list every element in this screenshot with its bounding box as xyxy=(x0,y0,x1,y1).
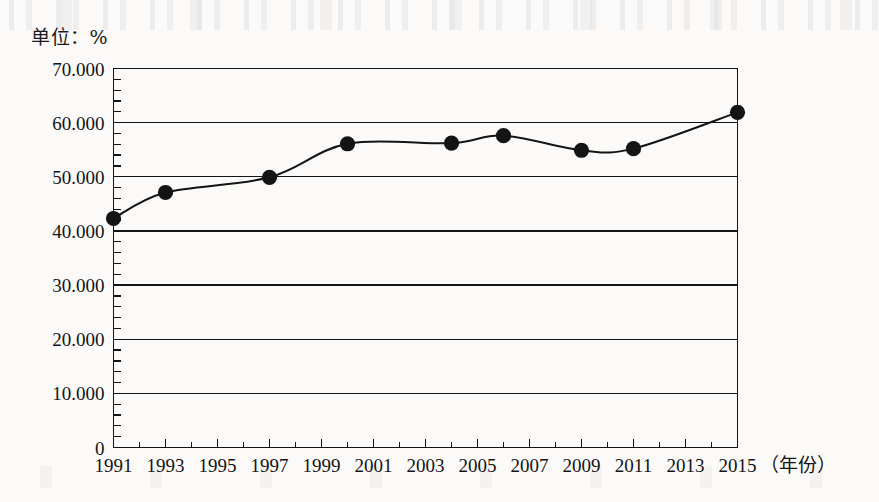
y-tick-label: 10.000 xyxy=(52,383,104,404)
x-tick-label: 2005 xyxy=(459,455,497,476)
plot-frame xyxy=(114,69,738,448)
data-point-marker: 2009: 54.9 xyxy=(574,143,589,158)
y-tick-label: 70.000 xyxy=(52,59,104,80)
line-chart: 010.00020.00030.00040.00050.00060.00070.… xyxy=(0,0,879,502)
y-tick-label: 60.000 xyxy=(52,113,104,134)
x-tick-label: 1995 xyxy=(199,455,237,476)
chart-page: 单位：% 010.00020.00030.00040.00050.00060.0… xyxy=(0,0,879,502)
y-tick-label: 50.000 xyxy=(52,167,104,188)
y-tick-label: 40.000 xyxy=(52,221,104,242)
data-point-marker: 2006: 57.6 xyxy=(496,128,511,143)
y-axis-tick-labels: 010.00020.00030.00040.00050.00060.00070.… xyxy=(52,59,104,459)
series-line xyxy=(114,112,738,218)
x-tick-label: 2011 xyxy=(615,455,652,476)
x-tick-label: 2003 xyxy=(407,455,445,476)
data-point-marker: 2000: 56.1 xyxy=(340,136,355,151)
x-axis-minor-ticks xyxy=(114,439,738,448)
data-point-marker: 1993: 47.1 xyxy=(158,185,173,200)
x-tick-label: 1999 xyxy=(303,455,341,476)
y-tick-label: 30.000 xyxy=(52,275,104,296)
x-tick-label: 1991 xyxy=(95,455,133,476)
x-tick-label: 2009 xyxy=(563,455,601,476)
grid-lines xyxy=(114,123,738,394)
x-tick-label: 2001 xyxy=(355,455,393,476)
data-point-marker: 2004: 56.2 xyxy=(444,136,459,151)
x-tick-label: 2007 xyxy=(511,455,549,476)
y-axis-minor-ticks xyxy=(114,79,121,436)
x-tick-label: 2013 xyxy=(667,455,705,476)
data-point-marker: 2011: 55.2 xyxy=(626,141,641,156)
data-point-marker: 1997: 49.9 xyxy=(262,170,277,185)
y-tick-label: 20.000 xyxy=(52,329,104,350)
x-tick-label: 1997 xyxy=(251,455,289,476)
data-point-marker: 2015: 61.9 xyxy=(730,105,745,120)
x-tick-label: 2015 xyxy=(719,455,757,476)
x-tick-label: 1993 xyxy=(147,455,185,476)
x-axis-caption: （年份） xyxy=(760,454,836,476)
data-point-marker: 1991: 42.3 xyxy=(106,211,121,226)
x-axis-tick-labels: 1991199319951997199920012003200520072009… xyxy=(95,455,757,476)
